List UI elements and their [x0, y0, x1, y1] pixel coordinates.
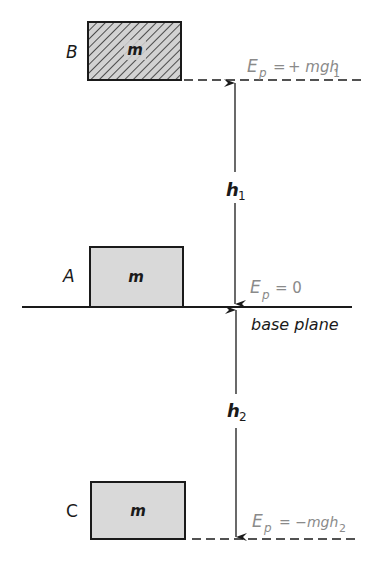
svg-text:1: 1 — [238, 189, 246, 203]
box-a-mass-label: m — [128, 268, 144, 286]
box-b-label: B — [66, 42, 78, 62]
h1-label: h 1 — [226, 179, 246, 203]
svg-text:h: h — [227, 400, 240, 421]
svg-text:E: E — [252, 511, 263, 531]
box-a-label: A — [62, 266, 75, 286]
box-a: m — [90, 247, 183, 307]
svg-text:=: = — [273, 58, 286, 76]
svg-text:+ mgh: + mgh — [288, 58, 339, 76]
box-b-mass-label: m — [127, 41, 143, 59]
svg-text:p: p — [258, 66, 267, 80]
svg-text:= −mgh: = −mgh — [279, 514, 338, 530]
svg-text:E: E — [247, 56, 258, 76]
box-b: m — [88, 22, 181, 80]
svg-text:= 0: = 0 — [275, 279, 302, 297]
svg-text:1: 1 — [333, 67, 340, 80]
svg-text:h: h — [226, 179, 239, 200]
top-energy-label: E p = + mgh 1 — [247, 56, 340, 80]
potential-energy-diagram: m B E p = + mgh 1 h 1 m A E p = 0 base p… — [0, 0, 381, 565]
svg-text:p: p — [263, 521, 272, 535]
box-c: m — [91, 482, 185, 539]
svg-text:2: 2 — [339, 522, 346, 535]
svg-text:p: p — [261, 288, 270, 302]
bottom-energy-label: E p = −mgh 2 — [252, 511, 346, 535]
middle-energy-label: E p = 0 — [250, 277, 302, 302]
svg-text:E: E — [250, 277, 261, 297]
box-c-mass-label: m — [130, 502, 146, 520]
box-c-label: C — [66, 501, 78, 521]
h2-label: h 2 — [227, 400, 247, 424]
base-plane-label: base plane — [251, 315, 339, 334]
svg-text:2: 2 — [239, 410, 247, 424]
